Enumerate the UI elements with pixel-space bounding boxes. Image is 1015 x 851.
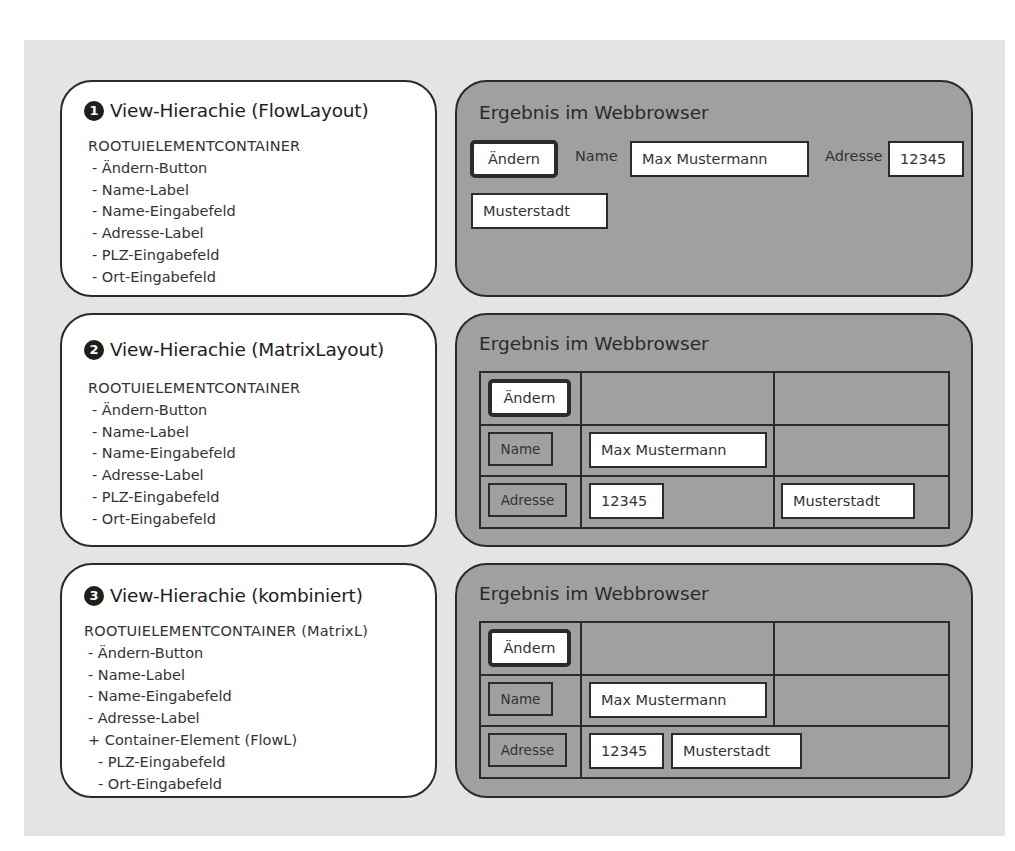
matrix-divider bbox=[481, 674, 948, 676]
hierarchy-tree: ROOTUIELEMENTCONTAINER - Ändern-Button -… bbox=[88, 136, 300, 289]
tree-item-container: + Container-Element (FlowL) bbox=[84, 730, 368, 752]
address-label: Adresse bbox=[825, 148, 882, 164]
tree-item: - Name-Eingabefeld bbox=[88, 443, 300, 465]
name-input[interactable]: Max Mustermann bbox=[589, 432, 767, 468]
hierarchy-title: 2 View-Hierachie (MatrixLayout) bbox=[84, 339, 384, 360]
hierarchy-title-text: View-Hierachie (MatrixLayout) bbox=[110, 339, 384, 360]
result-title: Ergebnis im Webbrowser bbox=[479, 583, 709, 604]
tree-item: - Ändern-Button bbox=[84, 643, 368, 665]
number-badge-icon: 1 bbox=[84, 101, 104, 121]
tree-root: ROOTUIELEMENTCONTAINER bbox=[88, 136, 300, 158]
result-box-flowlayout: Ergebnis im Webbrowser Ändern Name Max M… bbox=[455, 80, 973, 297]
tree-item: - Adresse-Label bbox=[88, 223, 300, 245]
city-input[interactable]: Musterstadt bbox=[471, 193, 608, 229]
tree-item-nested: - Ort-Eingabefeld bbox=[84, 774, 368, 796]
city-input[interactable]: Musterstadt bbox=[671, 733, 802, 769]
zip-input[interactable]: 12345 bbox=[589, 733, 664, 769]
name-input[interactable]: Max Mustermann bbox=[589, 682, 767, 718]
matrix-divider bbox=[580, 373, 582, 527]
tree-root: ROOTUIELEMENTCONTAINER bbox=[88, 378, 300, 400]
zip-input[interactable]: 12345 bbox=[888, 141, 964, 177]
name-label: Name bbox=[575, 148, 618, 164]
matrix-divider bbox=[773, 373, 775, 527]
hierarchy-tree: ROOTUIELEMENTCONTAINER (MatrixL) - Änder… bbox=[84, 621, 368, 795]
matrix-divider bbox=[580, 623, 582, 777]
tree-item: - Name-Label bbox=[84, 665, 368, 687]
tree-item: - Ort-Eingabefeld bbox=[88, 267, 300, 289]
tree-item: - PLZ-Eingabefeld bbox=[88, 487, 300, 509]
tree-item: - PLZ-Eingabefeld bbox=[88, 245, 300, 267]
matrix-grid: Ändern Name Max Mustermann Adresse 12345… bbox=[479, 621, 950, 779]
matrix-grid: Ändern Name Max Mustermann Adresse 12345… bbox=[479, 371, 950, 529]
result-box-matrixlayout: Ergebnis im Webbrowser Ändern Name Max M… bbox=[455, 313, 973, 547]
number-badge-icon: 2 bbox=[84, 340, 104, 360]
aendern-button[interactable]: Ändern bbox=[470, 140, 558, 178]
aendern-button[interactable]: Ändern bbox=[488, 629, 571, 667]
hierarchy-title: 1 View-Hierachie (FlowLayout) bbox=[84, 100, 368, 121]
tree-item: - Adresse-Label bbox=[84, 708, 368, 730]
zip-input[interactable]: 12345 bbox=[589, 483, 664, 519]
name-label: Name bbox=[488, 432, 553, 466]
hierarchy-box-combined: 3 View-Hierachie (kombiniert) ROOTUIELEM… bbox=[60, 563, 437, 798]
tree-item: - Name-Label bbox=[88, 180, 300, 202]
result-title: Ergebnis im Webbrowser bbox=[479, 102, 709, 123]
tree-item: - Name-Eingabefeld bbox=[84, 686, 368, 708]
city-input[interactable]: Musterstadt bbox=[781, 483, 915, 519]
number-badge-icon: 3 bbox=[84, 586, 104, 606]
aendern-button[interactable]: Ändern bbox=[488, 379, 571, 417]
hierarchy-tree: ROOTUIELEMENTCONTAINER - Ändern-Button -… bbox=[88, 378, 300, 531]
tree-item: - Ändern-Button bbox=[88, 158, 300, 180]
tree-item: - Name-Label bbox=[88, 422, 300, 444]
tree-item: - Ort-Eingabefeld bbox=[88, 509, 300, 531]
name-input[interactable]: Max Mustermann bbox=[630, 141, 809, 177]
result-box-combined: Ergebnis im Webbrowser Ändern Name Max M… bbox=[455, 563, 973, 798]
matrix-divider bbox=[481, 475, 948, 477]
result-title: Ergebnis im Webbrowser bbox=[479, 333, 709, 354]
hierarchy-box-matrixlayout: 2 View-Hierachie (MatrixLayout) ROOTUIEL… bbox=[60, 313, 437, 547]
hierarchy-box-flowlayout: 1 View-Hierachie (FlowLayout) ROOTUIELEM… bbox=[60, 80, 437, 297]
hierarchy-title-text: View-Hierachie (FlowLayout) bbox=[110, 100, 368, 121]
tree-item-nested: - PLZ-Eingabefeld bbox=[84, 752, 368, 774]
name-label: Name bbox=[488, 682, 553, 716]
address-label: Adresse bbox=[488, 483, 567, 517]
tree-item: - Name-Eingabefeld bbox=[88, 201, 300, 223]
matrix-divider bbox=[481, 424, 948, 426]
hierarchy-title: 3 View-Hierachie (kombiniert) bbox=[84, 585, 363, 606]
tree-item: - Adresse-Label bbox=[88, 465, 300, 487]
tree-root: ROOTUIELEMENTCONTAINER (MatrixL) bbox=[84, 621, 368, 643]
matrix-divider bbox=[481, 725, 948, 727]
hierarchy-title-text: View-Hierachie (kombiniert) bbox=[110, 585, 363, 606]
tree-item: - Ändern-Button bbox=[88, 400, 300, 422]
address-label: Adresse bbox=[488, 733, 567, 767]
